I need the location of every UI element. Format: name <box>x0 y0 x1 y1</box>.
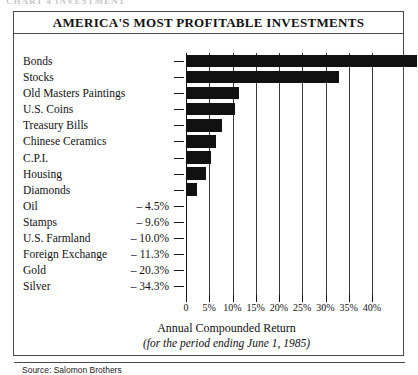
negative-value-column: – 4.5%– 9.6%– 10.0%– 11.3%– 20.3%– 34.3% <box>114 53 169 294</box>
x-tick-label: 20% <box>270 302 288 313</box>
x-tick-label: 30% <box>316 302 334 313</box>
bar-row <box>187 278 398 294</box>
x-tick-label: 40% <box>363 302 381 313</box>
category-tick <box>174 198 186 214</box>
category-tick <box>174 85 186 101</box>
bar-row <box>187 166 398 182</box>
tick-mark <box>174 77 184 78</box>
x-tick-label: 25% <box>293 302 311 313</box>
tick-mark <box>174 206 184 207</box>
negative-value-label: – 11.3% <box>114 246 169 262</box>
bar-row <box>187 150 398 166</box>
tick-mark <box>174 61 184 62</box>
tick-mark <box>174 190 184 191</box>
x-axis-title: Annual Compounded Return <box>14 321 405 336</box>
negative-value-label <box>114 101 169 117</box>
bar-row <box>187 101 398 117</box>
tick-mark <box>174 238 184 239</box>
cut-off-header-label: CHART 4 INVESTMENT <box>6 0 126 6</box>
bar-group <box>187 53 398 294</box>
negative-value-label <box>114 150 169 166</box>
x-tick-label: 10% <box>223 302 241 313</box>
negative-value-label: – 10.0% <box>114 230 169 246</box>
x-tick-mark <box>349 295 350 302</box>
category-tick <box>174 53 186 69</box>
x-tick-label: 35% <box>340 302 358 313</box>
x-tick-mark <box>186 295 187 302</box>
category-tick <box>174 182 186 198</box>
chart-title-band: AMERICA'S MOST PROFITABLE INVESTMENTS <box>14 12 403 34</box>
tick-mark <box>174 222 184 223</box>
category-tick <box>174 69 186 85</box>
tick-mark <box>174 174 184 175</box>
plot-area: BondsStocksOld Masters PaintingsU.S. Coi… <box>14 34 405 356</box>
tick-mark <box>174 254 184 255</box>
category-tick-column <box>174 53 186 294</box>
negative-value-label: – 34.3% <box>114 278 169 294</box>
negative-value-label: – 4.5% <box>114 198 169 214</box>
bar <box>187 119 222 132</box>
x-tick-mark <box>233 295 234 302</box>
x-tick-mark <box>302 295 303 302</box>
bar <box>187 183 197 196</box>
bar-row <box>187 85 398 101</box>
x-tick-label: 15% <box>247 302 265 313</box>
tick-mark <box>174 158 184 159</box>
category-tick <box>174 262 186 278</box>
tick-mark <box>174 270 184 271</box>
bar-row <box>187 214 398 230</box>
tick-mark <box>174 125 184 126</box>
bar-row <box>187 133 398 149</box>
x-tick-label: 0 <box>184 302 189 313</box>
bar <box>187 151 211 164</box>
tick-mark <box>174 141 184 142</box>
tick-mark <box>174 93 184 94</box>
negative-value-label <box>114 166 169 182</box>
source-divider <box>14 362 405 363</box>
negative-value-label: – 9.6% <box>114 214 169 230</box>
negative-value-label <box>114 117 169 133</box>
x-tick-labels: 05%10%15%20%25%30%35%40% <box>174 302 410 316</box>
negative-value-label: – 20.3% <box>114 262 169 278</box>
bar-row <box>187 262 398 278</box>
x-tick-mark <box>279 295 280 302</box>
bar-row <box>187 246 398 262</box>
category-tick <box>174 117 186 133</box>
x-tick-mark <box>209 295 210 302</box>
tick-mark <box>174 286 184 287</box>
category-tick <box>174 133 186 149</box>
bar-row <box>187 69 398 85</box>
bar <box>187 135 216 148</box>
bar-row <box>187 198 398 214</box>
category-tick <box>174 214 186 230</box>
bar <box>187 71 339 84</box>
bar-row <box>187 230 398 246</box>
chart-frame: AMERICA'S MOST PROFITABLE INVESTMENTS Bo… <box>13 11 404 356</box>
negative-value-label <box>114 133 169 149</box>
x-axis-subtitle: (for the period ending June 1, 1985) <box>14 337 405 349</box>
category-tick <box>174 230 186 246</box>
negative-value-label <box>114 85 169 101</box>
bar-row <box>187 182 398 198</box>
x-tick-mark <box>256 295 257 302</box>
negative-value-label <box>114 69 169 85</box>
cut-off-header-text: CHART 4 INVESTMENT <box>0 0 418 9</box>
bar <box>187 167 206 180</box>
negative-value-label <box>114 182 169 198</box>
bar-plot-canvas <box>186 53 398 295</box>
category-tick <box>174 150 186 166</box>
source-note: Source: Salomon Brothers <box>22 365 122 375</box>
category-tick <box>174 246 186 262</box>
negative-value-label <box>114 53 169 69</box>
category-tick <box>174 166 186 182</box>
chart-title: AMERICA'S MOST PROFITABLE INVESTMENTS <box>53 15 364 31</box>
x-tick-mark <box>372 295 373 302</box>
x-tick-marks <box>186 295 398 302</box>
category-tick <box>174 101 186 117</box>
category-tick <box>174 278 186 294</box>
bar <box>187 55 417 68</box>
bar <box>187 87 239 100</box>
bar <box>187 103 235 116</box>
bar-row <box>187 117 398 133</box>
x-axis-title-block: Annual Compounded Return (for the period… <box>14 321 405 349</box>
